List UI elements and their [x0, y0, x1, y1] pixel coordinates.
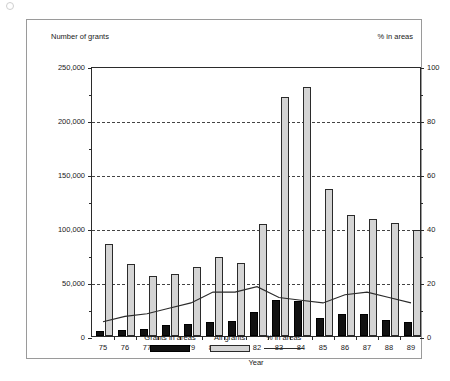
right-axis-tick — [420, 122, 424, 123]
right-axis-minor-tick — [420, 311, 423, 312]
right-axis-tick-label: 40 — [427, 225, 435, 234]
chart-legend: Grants in areasAll grants% in areas — [27, 333, 421, 352]
right-axis-minor-tick — [420, 95, 423, 96]
right-axis-minor-tick — [420, 149, 423, 150]
right-axis-tick-label: 0 — [427, 333, 431, 342]
legend-item: All grants — [210, 333, 250, 352]
right-axis-minor-tick — [420, 257, 423, 258]
right-axis-tick-label: 100 — [427, 63, 440, 72]
legend-label: % in areas — [266, 333, 301, 342]
right-axis-tick-label: 60 — [427, 171, 435, 180]
legend-swatch-areas — [150, 345, 190, 352]
right-axis-tick — [420, 284, 424, 285]
right-axis-title: % in areas — [378, 32, 413, 41]
right-axis-tick — [420, 230, 424, 231]
right-axis-minor-tick — [420, 203, 423, 204]
legend-item: % in areas — [264, 333, 304, 349]
right-axis-tick-label: 20 — [427, 279, 435, 288]
percent-line-series — [92, 68, 420, 336]
percent-line-path — [103, 287, 411, 322]
legend-swatch-line — [264, 348, 304, 349]
right-axis-tick — [420, 176, 424, 177]
right-axis-tick — [420, 68, 424, 69]
plot-area: 050,000100,000150,000200,000250,000 0204… — [91, 67, 421, 337]
corner-dot-icon — [6, 2, 14, 10]
left-axis-title: Number of grants — [51, 32, 109, 41]
left-axis-tick-label: 50,000 — [62, 279, 85, 288]
x-axis-title: Year — [248, 358, 263, 367]
chart-figure: Number of grants % in areas 050,000100,0… — [26, 19, 422, 359]
plot-inner — [92, 68, 420, 336]
legend-label: All grants — [214, 333, 245, 342]
left-axis-tick-label: 100,000 — [58, 225, 85, 234]
legend-label: Grants in areas — [144, 333, 195, 342]
left-axis-tick-label: 150,000 — [58, 171, 85, 180]
right-axis-tick-label: 80 — [427, 117, 435, 126]
left-axis-tick-label: 200,000 — [58, 117, 85, 126]
legend-item: Grants in areas — [144, 333, 195, 352]
legend-swatch-all — [210, 345, 250, 352]
left-axis-tick-label: 250,000 — [58, 63, 85, 72]
